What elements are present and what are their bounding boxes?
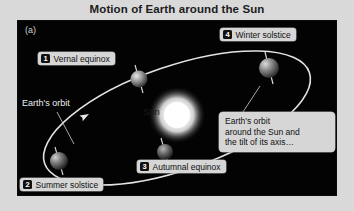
callout-line-1: Earth's orbit [225, 116, 330, 127]
orbit-text-leader [57, 112, 74, 144]
marker-label-vernal-equinox[interactable]: 1 Vernal equinox [38, 52, 115, 65]
earths-orbit-label: Earth's orbit [22, 98, 70, 108]
marker-label-winter-solstice[interactable]: 4 Winter solstice [220, 28, 296, 41]
page-title: Motion of Earth around the Sun [0, 2, 354, 16]
earth-vernal-equinox [131, 65, 148, 93]
earth-summer-solstice [50, 147, 68, 175]
marker-label-autumnal-equinox[interactable]: 3 Autumnal equinox [137, 160, 226, 173]
marker-text-3: Autumnal equinox [153, 162, 221, 172]
callout-line-3: the tilt of its axis… [225, 137, 330, 148]
callout-box[interactable]: Earth's orbit around the Sun and the til… [219, 112, 335, 152]
panel-label: (a) [25, 25, 36, 35]
marker-number-2: 2 [23, 180, 32, 189]
earth-winter-solstice [259, 52, 279, 84]
marker-label-summer-solstice[interactable]: 2 Summer solstice [20, 178, 103, 191]
marker-number-4: 4 [223, 30, 232, 39]
marker-text-4: Winter solstice [236, 30, 291, 40]
marker-number-1: 1 [41, 54, 50, 63]
callout-line-2: around the Sun and [225, 127, 330, 138]
marker-text-2: Summer solstice [36, 180, 99, 190]
earth-motion-figure: Motion of Earth around the Sun [0, 0, 354, 211]
marker-number-3: 3 [140, 162, 149, 171]
marker-text-1: Vernal equinox [54, 54, 110, 64]
sun-label: Sun [143, 106, 160, 117]
